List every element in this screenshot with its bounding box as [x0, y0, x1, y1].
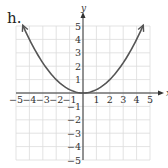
x-tick-label: −2	[49, 94, 63, 105]
x-tick-label: −5	[9, 94, 23, 105]
y-tick-label: 4	[75, 34, 81, 45]
y-tick-label: 3	[75, 47, 81, 58]
y-tick-label: 2	[75, 61, 81, 72]
x-axis-label: x	[166, 88, 168, 98]
y-tick-label: −3	[67, 128, 81, 139]
x-tick-label: 3	[120, 94, 126, 105]
parabola-graph: xy−5−4−3−2−11234554321−1−2−3−4−5	[0, 0, 168, 168]
y-tick-label: −1	[67, 101, 81, 112]
y-tick-label: −2	[67, 114, 81, 125]
x-tick-label: −4	[22, 94, 36, 105]
y-tick-label: −5	[67, 155, 81, 166]
x-tick-label: 4	[134, 94, 140, 105]
y-tick-label: 1	[75, 74, 81, 85]
x-tick-label: 2	[107, 94, 113, 105]
x-tick-label: −3	[36, 94, 50, 105]
y-axis-label: y	[80, 3, 87, 13]
y-tick-label: 5	[75, 21, 81, 32]
x-axis-arrow-icon	[158, 91, 164, 96]
y-tick-label: −4	[67, 141, 81, 152]
x-tick-label: 1	[93, 94, 99, 105]
x-tick-label: 5	[147, 94, 153, 105]
